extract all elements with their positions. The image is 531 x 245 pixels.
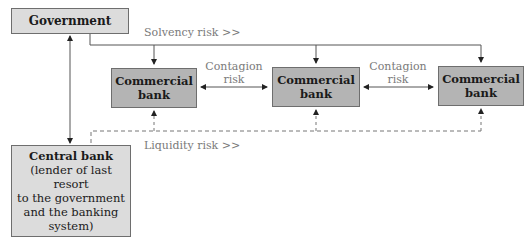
government-node: Government: [11, 8, 129, 34]
bank-label: Commercial: [277, 73, 355, 87]
bank-label: bank: [465, 86, 497, 100]
government-label: Government: [29, 14, 112, 28]
central-bank-title: Central bank: [29, 149, 113, 163]
central-bank-node: Central bank (lender of last resort to t…: [11, 145, 131, 237]
commercial-bank-node-1: Commercial bank: [111, 68, 197, 108]
bank-label: Commercial: [115, 74, 193, 88]
contagion-risk-label-1: Contagion risk: [204, 60, 264, 86]
bank-label: bank: [300, 87, 332, 101]
liquidity-risk-label: Liquidity risk >>: [144, 139, 240, 152]
central-bank-desc-line: to the government: [17, 191, 125, 205]
solvency-risk-label: Solvency risk >>: [144, 26, 240, 39]
commercial-bank-node-3: Commercial bank: [438, 66, 524, 106]
central-bank-desc-line: and the banking: [24, 205, 119, 219]
bank-label: bank: [138, 88, 170, 102]
central-bank-desc-line: system): [48, 219, 93, 233]
commercial-bank-node-2: Commercial bank: [272, 67, 360, 107]
bank-label: Commercial: [442, 72, 520, 86]
contagion-risk-label-2: Contagion risk: [368, 60, 428, 86]
central-bank-desc-line: (lender of last resort: [12, 163, 130, 191]
